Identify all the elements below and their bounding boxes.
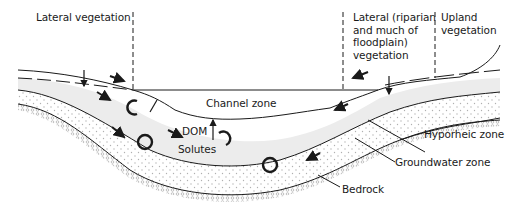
label-hyporheic-zone: Hyporheic zone (424, 128, 504, 141)
label-upland-vegetation: Upland vegetation (441, 11, 496, 36)
label-lateral-vegetation: Lateral vegetation (36, 11, 131, 24)
label-bedrock: Bedrock (342, 183, 384, 196)
label-groundwater-zone: Groundwater zone (395, 156, 490, 169)
label-lateral-riparian: Lateral (riparian and much of floodplain… (353, 11, 436, 61)
label-solutes: Solutes (178, 143, 216, 156)
label-channel-zone: Channel zone (206, 97, 276, 110)
label-dom: DOM (182, 125, 207, 138)
